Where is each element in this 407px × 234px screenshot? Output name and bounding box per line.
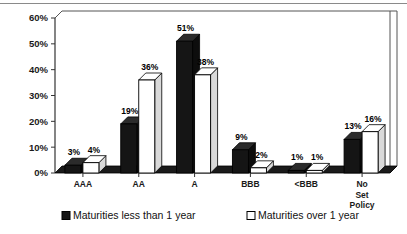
- bar-value-label: 13%: [345, 121, 362, 131]
- bar-chart-figure: 0%10%20%30%40%50%60%3%4%AAA19%36%AA51%38…: [0, 0, 407, 234]
- y-axis-tick-label: 40%: [29, 64, 49, 75]
- x-axis-category-label: BBB: [241, 179, 259, 189]
- bar-front-face: [65, 165, 81, 173]
- y-axis-tick-label: 60%: [29, 12, 49, 23]
- bar-front-face: [139, 80, 155, 173]
- x-axis-category-label: AAA: [74, 179, 92, 189]
- bar-value-label: 9%: [235, 132, 248, 142]
- x-axis-category-label: Set: [355, 190, 368, 200]
- bar-value-label: 16%: [365, 114, 382, 124]
- y-axis-tick-label: 20%: [29, 116, 49, 127]
- bar-front-face: [177, 41, 193, 173]
- maturity-distribution-chart: 0%10%20%30%40%50%60%3%4%AAA19%36%AA51%38…: [0, 0, 407, 234]
- bar-series-two: [195, 68, 218, 173]
- bar-value-label: 3%: [68, 147, 81, 157]
- bar-value-label: 36%: [141, 62, 158, 72]
- y-axis-tick-label: 50%: [29, 38, 49, 49]
- bar-side-face: [155, 73, 162, 173]
- bar-value-label: 19%: [121, 106, 138, 116]
- bar-front-face: [344, 139, 360, 173]
- legend-label-series-one: Maturities less than 1 year: [73, 209, 196, 221]
- y-axis-tick-label: 30%: [29, 90, 49, 101]
- bar-front-face: [250, 168, 266, 173]
- bar-value-label: 51%: [177, 23, 194, 33]
- x-axis-category-label: AA: [133, 179, 145, 189]
- bar-side-face: [211, 68, 218, 173]
- x-axis-category-label: No: [356, 179, 367, 189]
- legend-swatch-series-one: [62, 212, 70, 220]
- bar-front-face: [362, 132, 378, 173]
- bar-value-label: 4%: [88, 145, 101, 155]
- bar-series-two: [362, 125, 385, 173]
- plot-corner-top-left: [55, 11, 62, 18]
- bar-series-two: [139, 73, 162, 173]
- bar-front-face: [83, 163, 99, 173]
- legend-swatch-series-two: [247, 212, 255, 220]
- bar-front-face: [121, 124, 137, 173]
- bar-value-label: 1%: [311, 152, 324, 162]
- bar-front-face: [232, 150, 248, 173]
- bar-value-label: 38%: [197, 57, 214, 67]
- legend-label-series-two: Maturities over 1 year: [258, 209, 359, 221]
- x-axis-category-label: <BBB: [295, 179, 318, 189]
- y-axis-tick-label: 10%: [29, 142, 49, 153]
- bar-value-label: 1%: [291, 152, 304, 162]
- bar-side-face: [378, 125, 385, 173]
- x-axis-category-label: A: [192, 179, 198, 189]
- bar-value-label: 2%: [255, 150, 268, 160]
- bar-front-face: [306, 170, 322, 173]
- bar-front-face: [288, 170, 304, 173]
- bar-front-face: [195, 75, 211, 173]
- y-axis-tick-label: 0%: [34, 167, 48, 178]
